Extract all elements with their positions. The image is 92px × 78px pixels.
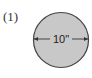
dimension-label: 10" xyxy=(53,33,69,45)
circle-diagram: 10" xyxy=(0,0,92,78)
